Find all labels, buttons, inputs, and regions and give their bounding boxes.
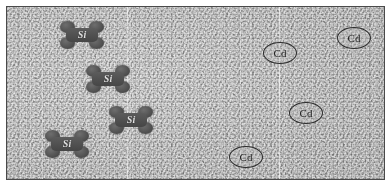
cd-annotation-label: Cd [347,33,360,44]
cd-annotation-label: Cd [239,152,252,163]
scan-line-1 [127,7,128,179]
si-adatom-cluster: Si [59,21,105,49]
si-cluster-label: Si [44,135,90,152]
si-adatom-cluster: Si [108,106,154,134]
cd-annotation-ellipse: Cd [337,27,371,49]
cd-annotation-label: Cd [273,48,286,59]
si-cluster-label: Si [59,26,105,43]
si-cluster-label: Si [85,70,131,87]
micrograph-figure: SiSiSiSi CdCdCdCd [0,0,391,188]
si-adatom-cluster: Si [44,130,90,158]
cd-annotation-ellipse: Cd [289,102,323,124]
scan-line-2 [279,7,280,179]
cd-annotation-ellipse: Cd [263,42,297,64]
si-cluster-label: Si [108,111,154,128]
si-adatom-cluster: Si [85,65,131,93]
cd-annotation-label: Cd [299,108,312,119]
cd-annotation-ellipse: Cd [229,146,263,168]
micrograph-image: SiSiSiSi CdCdCdCd [6,6,385,180]
